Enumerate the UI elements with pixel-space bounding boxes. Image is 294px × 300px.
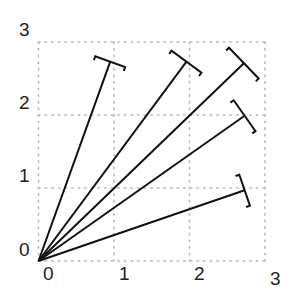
vector-shaft — [39, 190, 245, 261]
x-tick-1: 1 — [119, 263, 130, 284]
y-tick-0: 0 — [19, 239, 30, 260]
x-tick-2: 2 — [194, 263, 205, 284]
vector-shaft — [39, 116, 245, 261]
vector-plot: 0 1 2 3 0 1 2 3 — [0, 0, 294, 300]
y-tick-1: 1 — [19, 165, 30, 186]
vector-shaft — [39, 62, 187, 261]
vector-shaft — [39, 62, 111, 261]
vector-shaft — [39, 63, 244, 261]
y-tick-3: 3 — [19, 19, 30, 40]
vectors — [39, 48, 259, 261]
vector-4 — [39, 100, 256, 261]
y-tick-2: 2 — [19, 92, 30, 113]
vector-3 — [39, 48, 259, 261]
x-tick-3: 3 — [270, 268, 281, 289]
vector-2 — [39, 51, 202, 261]
x-tick-0: 0 — [43, 263, 54, 284]
